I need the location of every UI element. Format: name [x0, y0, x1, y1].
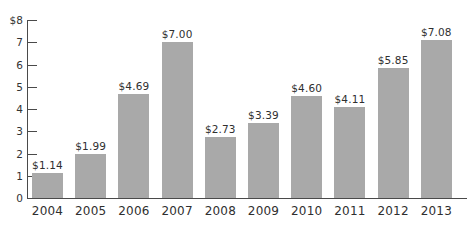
y-axis-tick-label-text: 1: [0, 171, 23, 182]
x-axis-tick-label: 2013: [412, 205, 461, 217]
bar[interactable]: [334, 107, 365, 198]
y-axis-tick-label: 0: [0, 193, 23, 204]
bar-value-label: $1.99: [66, 141, 115, 152]
y-axis-tick-mark: [28, 42, 37, 43]
y-axis-tick-label: 7: [0, 37, 23, 48]
bar-value-label: $3.39: [239, 110, 288, 121]
bar-value-label: $4.11: [325, 94, 374, 105]
bar-value-label: $7.08: [412, 27, 461, 38]
y-axis-tick-mark: [28, 131, 37, 132]
x-axis-tick-label: 2004: [23, 205, 72, 217]
y-axis-tick-mark: [28, 65, 37, 66]
bar[interactable]: [421, 40, 452, 198]
bar[interactable]: [248, 123, 279, 198]
y-axis-tick-label: 3: [0, 126, 23, 137]
x-axis-tick-label: 2006: [109, 205, 158, 217]
y-axis-tick-label-text: 7: [0, 37, 23, 48]
y-axis-tick-label: 4: [0, 104, 23, 115]
bar[interactable]: [291, 96, 322, 198]
x-axis-tick-label: 2005: [66, 205, 115, 217]
y-axis-tick-label-text: 5: [0, 82, 23, 93]
bar-value-label: $1.14: [23, 160, 72, 171]
bar-chart: $876543210 $1.14$1.99$4.69$7.00$2.73$3.3…: [0, 0, 471, 232]
bar[interactable]: [118, 94, 149, 198]
y-axis-tick-label: $8: [0, 15, 23, 26]
x-axis-tick-label: 2009: [239, 205, 288, 217]
y-axis-tick-mark: [28, 20, 37, 21]
bar-value-label: $2.73: [196, 124, 245, 135]
bar[interactable]: [162, 42, 193, 198]
x-axis-tick-label: 2010: [282, 205, 331, 217]
bar-value-label: $4.69: [109, 81, 158, 92]
y-axis-tick-label: 2: [0, 149, 23, 160]
bar[interactable]: [75, 154, 106, 198]
bar[interactable]: [378, 68, 409, 198]
y-axis-tick-label-text: 3: [0, 126, 23, 137]
bar[interactable]: [32, 173, 63, 198]
bar-value-label: $4.60: [282, 83, 331, 94]
x-axis-tick-label: 2007: [153, 205, 202, 217]
x-axis-tick-label: 2011: [325, 205, 374, 217]
bar[interactable]: [205, 137, 236, 198]
x-axis-line: [27, 198, 467, 199]
x-axis-tick-label: 2012: [369, 205, 418, 217]
y-axis-tick-label-text: 2: [0, 149, 23, 160]
y-axis-tick-mark: [28, 109, 37, 110]
y-axis-tick-label-text: 0: [0, 193, 23, 204]
y-axis-tick-mark: [28, 87, 37, 88]
bar-value-label: $7.00: [153, 29, 202, 40]
y-axis-tick-label: 5: [0, 82, 23, 93]
y-axis-tick-label-text: $8: [0, 15, 23, 26]
y-axis-tick-label-text: 4: [0, 104, 23, 115]
bar-value-label: $5.85: [369, 55, 418, 66]
y-axis-tick-label: 6: [0, 60, 23, 71]
y-axis-tick-mark: [28, 154, 37, 155]
x-axis-tick-label: 2008: [196, 205, 245, 217]
y-axis-tick-label: 1: [0, 171, 23, 182]
y-axis-tick-label-text: 6: [0, 60, 23, 71]
